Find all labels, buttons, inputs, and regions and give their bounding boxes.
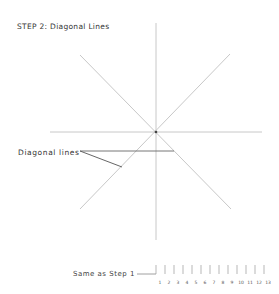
diagonal-lines-diagram — [0, 0, 279, 294]
ruler-label: 10 — [238, 280, 244, 285]
ruler-label: 11 — [247, 280, 253, 285]
ruler-label: 3 — [177, 280, 180, 285]
center-point — [155, 131, 158, 134]
ruler-label: 7 — [213, 280, 216, 285]
ruler-label: 4 — [186, 280, 189, 285]
ruler-label: 13 — [265, 280, 271, 285]
leader-line-left — [80, 151, 122, 167]
ruler-label: 2 — [168, 280, 171, 285]
ruler-label: 6 — [204, 280, 207, 285]
ruler-label: 8 — [222, 280, 225, 285]
ruler-label: 5 — [195, 280, 198, 285]
diagonal-lines-annotation: Diagonal lines — [18, 148, 79, 157]
ruler-label: 1 — [159, 280, 162, 285]
ruler-label: 9 — [231, 280, 234, 285]
ruler — [137, 265, 264, 274]
ruler-label: 12 — [256, 280, 262, 285]
same-as-step-label: Same as Step 1 — [73, 270, 135, 278]
